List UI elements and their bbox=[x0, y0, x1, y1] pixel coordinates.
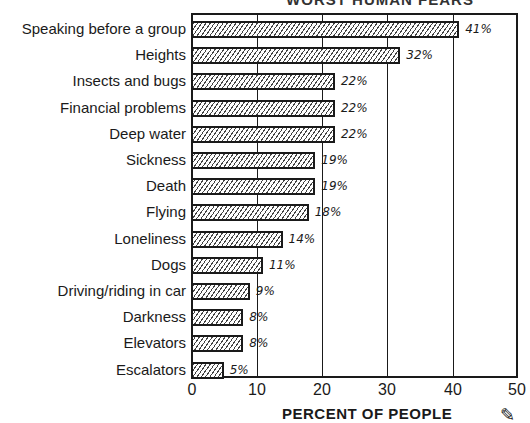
category-label: Darkness bbox=[123, 308, 186, 325]
gridline-40 bbox=[453, 15, 454, 376]
category-label: Heights bbox=[135, 46, 186, 63]
value-label: 22% bbox=[341, 127, 368, 141]
category-label: Loneliness bbox=[114, 230, 186, 247]
value-label: 32% bbox=[406, 48, 433, 62]
bar bbox=[191, 126, 335, 143]
value-label: 11% bbox=[269, 258, 296, 272]
value-label: 8% bbox=[249, 310, 268, 324]
value-label: 14% bbox=[289, 232, 316, 246]
category-label: Speaking before a group bbox=[22, 20, 186, 37]
value-label: 9% bbox=[256, 284, 275, 298]
category-label: Sickness bbox=[126, 151, 186, 168]
bar bbox=[191, 362, 224, 379]
x-tick-30: 30 bbox=[378, 381, 396, 399]
x-tick-10: 10 bbox=[248, 381, 266, 399]
bar bbox=[191, 283, 250, 300]
category-label: Escalators bbox=[116, 361, 186, 378]
category-label: Insects and bugs bbox=[73, 72, 186, 89]
category-label: Financial problems bbox=[60, 99, 186, 116]
x-tick-40: 40 bbox=[444, 381, 462, 399]
category-label: Deep water bbox=[109, 125, 186, 142]
value-label: 19% bbox=[321, 153, 348, 167]
bar bbox=[191, 204, 309, 221]
category-label: Driving/riding in car bbox=[58, 282, 186, 299]
bar bbox=[191, 309, 243, 326]
chart-title: WORST HUMAN FEARS bbox=[255, 0, 505, 8]
x-tick-0: 0 bbox=[188, 381, 197, 399]
category-label: Death bbox=[146, 177, 186, 194]
bar bbox=[191, 335, 243, 352]
category-label: Flying bbox=[146, 203, 186, 220]
bar bbox=[191, 231, 283, 248]
bar bbox=[191, 152, 315, 169]
bar bbox=[191, 100, 335, 117]
x-axis-label: PERCENT OF PEOPLE bbox=[282, 405, 452, 422]
gridline-20 bbox=[322, 15, 323, 376]
category-label: Dogs bbox=[151, 256, 186, 273]
value-label: 22% bbox=[341, 101, 368, 115]
value-label: 22% bbox=[341, 74, 368, 88]
bar bbox=[191, 257, 263, 274]
value-label: 18% bbox=[315, 205, 342, 219]
value-label: 5% bbox=[230, 363, 249, 377]
category-label: Elevators bbox=[123, 334, 186, 351]
bar bbox=[191, 47, 400, 64]
gridline-30 bbox=[387, 15, 388, 376]
value-label: 8% bbox=[249, 336, 268, 350]
value-label: 41% bbox=[465, 22, 492, 36]
bar bbox=[191, 21, 459, 38]
bar bbox=[191, 73, 335, 90]
bar bbox=[191, 178, 315, 195]
value-label: 19% bbox=[321, 179, 348, 193]
x-tick-50: 50 bbox=[508, 381, 526, 399]
pencil-icon: ✎ bbox=[500, 404, 515, 423]
x-tick-20: 20 bbox=[313, 381, 331, 399]
